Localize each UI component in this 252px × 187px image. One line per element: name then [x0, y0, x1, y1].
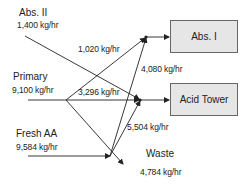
line-primary-to-waste [66, 100, 123, 164]
stream-allocation-diagram: Abs. II 1,400 kg/hr Primary 9,100 kg/hr … [0, 0, 252, 187]
destination-abs1-name: Abs. I [191, 31, 217, 42]
source-primary-flow: 9,100 kg/hr [12, 86, 53, 95]
source-abs2-name: Abs. II [19, 8, 47, 18]
junction-acid-tower [138, 98, 141, 101]
destination-waste-name: Waste [146, 149, 174, 159]
stream-primary-acid-tower-flow: 3,296 kg/hr [78, 88, 119, 97]
stream-fresh-aa-acid-tower-flow: 5,504 kg/hr [127, 123, 168, 132]
source-fresh-aa-flow: 9,584 kg/hr [16, 143, 57, 152]
source-primary-name: Primary [13, 72, 47, 82]
source-abs2-flow: 1,400 kg/hr [17, 21, 58, 30]
destination-acid-tower-box: Acid Tower [170, 83, 238, 116]
destination-abs1-box: Abs. I [170, 20, 238, 53]
destination-acid-tower-name: Acid Tower [180, 94, 229, 105]
stream-fresh-aa-abs1-flow: 4,080 kg/hr [141, 65, 182, 74]
stream-primary-abs1-flow: 1,020 kg/hr [78, 45, 119, 54]
junction-abs1 [144, 35, 147, 38]
line-fresh-aa-to-abs1 [110, 38, 146, 156]
source-fresh-aa-name: Fresh AA [16, 129, 57, 139]
destination-waste-flow: 4,784 kg/hr [140, 168, 181, 177]
